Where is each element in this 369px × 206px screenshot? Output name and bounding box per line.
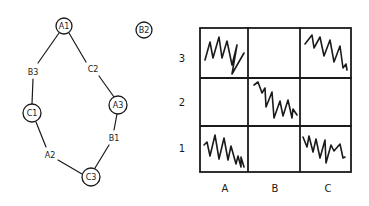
node-label: C2 bbox=[88, 65, 99, 74]
node-a1: A1 bbox=[56, 18, 72, 34]
node-label: A2 bbox=[45, 151, 56, 160]
col-label-b: B bbox=[272, 183, 279, 194]
node-label: C3 bbox=[86, 173, 97, 182]
node-c1: C1 bbox=[23, 104, 41, 122]
node-label: B2 bbox=[139, 26, 150, 35]
row-label-1: 1 bbox=[179, 143, 185, 154]
diagram-canvas: A1 B2 B3 C2 C1 A3 B1 A2 C3 bbox=[0, 0, 369, 206]
node-b3: B3 bbox=[28, 68, 39, 77]
scribble-a3 bbox=[205, 37, 244, 74]
scribble-c3 bbox=[305, 35, 347, 70]
scribble-b2 bbox=[254, 82, 297, 118]
scribble-a1 bbox=[204, 135, 244, 167]
node-a2: A2 bbox=[45, 151, 56, 160]
grid-fills bbox=[204, 35, 347, 167]
grid-border bbox=[200, 28, 351, 172]
edge-c2-a3 bbox=[99, 76, 114, 97]
scribble-c1 bbox=[303, 136, 345, 163]
edge-a1-c2 bbox=[69, 33, 86, 62]
node-label: C1 bbox=[27, 109, 38, 118]
node-label: B1 bbox=[109, 134, 120, 143]
col-labels: A B C bbox=[222, 183, 332, 194]
edge-a2-c3 bbox=[58, 160, 82, 174]
edge-c1-a2 bbox=[36, 122, 46, 147]
node-c2: C2 bbox=[88, 65, 99, 74]
edge-b3-c1 bbox=[32, 79, 33, 104]
col-label-a: A bbox=[222, 183, 229, 194]
node-label: A1 bbox=[59, 22, 70, 31]
row-labels: 3 2 1 bbox=[179, 53, 185, 154]
col-label-c: C bbox=[325, 183, 332, 194]
edge-a3-b1 bbox=[114, 114, 117, 130]
row-label-3: 3 bbox=[179, 53, 185, 64]
node-b1: B1 bbox=[109, 134, 120, 143]
edge-b1-c3 bbox=[95, 145, 109, 168]
node-c3: C3 bbox=[82, 168, 100, 186]
row-label-2: 2 bbox=[179, 97, 185, 108]
node-label: B3 bbox=[28, 68, 39, 77]
node-b2: B2 bbox=[136, 22, 152, 38]
edge-a1-b3 bbox=[38, 33, 59, 63]
node-label: A3 bbox=[113, 101, 124, 110]
node-a3: A3 bbox=[109, 96, 127, 114]
